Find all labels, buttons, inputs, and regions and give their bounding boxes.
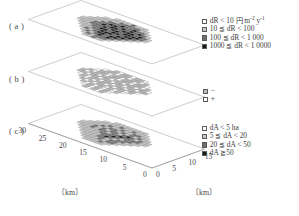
axis-left-tick-20: 20 xyxy=(59,141,67,150)
legend-row: 1000 ≦ dR < 1 0000 xyxy=(202,42,271,50)
axis-left-tick-25: 25 xyxy=(39,134,47,143)
axis-right-unit: 〔km〕 xyxy=(191,186,217,197)
legend-row: + xyxy=(203,95,215,103)
axis-right-tick-15: 15 xyxy=(205,152,213,161)
axis-left-tick-5: 5 xyxy=(123,163,127,172)
axis-right-tick-5: 5 xyxy=(172,164,176,173)
legend-swatch-icon xyxy=(202,134,207,139)
panel-label-b: ( b ) xyxy=(9,74,25,84)
figure-root: ( a ) ( b ) ( c ) dR < 10 円 m-2 y-110 ≦ … xyxy=(0,0,299,216)
axis-right-tick-0: 0 xyxy=(156,170,160,179)
legend-swatch-icon xyxy=(202,142,207,147)
legend-swatch-icon xyxy=(203,97,208,102)
axis-left-tick-10: 10 xyxy=(100,155,108,164)
axis-left-tick-15: 15 xyxy=(79,148,87,157)
legend-exponent: -2 xyxy=(250,15,255,21)
axis-right-tick-10: 10 xyxy=(189,158,197,167)
legend-swatch-icon xyxy=(202,27,207,32)
legend-exponent: -1 xyxy=(260,15,265,21)
legend-swatch-icon xyxy=(202,44,207,49)
axis-left-tick-0: 0 xyxy=(143,170,147,179)
legend-swatch-icon xyxy=(202,19,207,24)
panel-label-a: ( a ) xyxy=(9,21,24,31)
legend-label: dA ≧50 xyxy=(210,149,234,157)
legend-panel-b: −+ xyxy=(203,87,215,104)
axis-left-tick-30: 30 xyxy=(19,126,27,135)
legend-swatch-icon xyxy=(203,89,208,94)
legend-panel-a: dR < 10 円 m-2 y-110 ≦ dR < 100100 ≦ dR <… xyxy=(202,17,271,51)
legend-swatch-icon xyxy=(202,35,207,40)
axis-left-unit: 〔km〕 xyxy=(57,186,83,197)
legend-swatch-icon xyxy=(202,126,207,131)
legend-label: 1000 ≦ dR < 1 0000 xyxy=(210,42,271,50)
legend-label: + xyxy=(211,95,215,103)
